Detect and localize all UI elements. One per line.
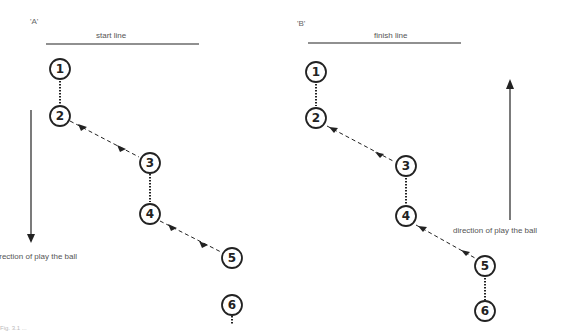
node-b-4: 4 (396, 206, 416, 226)
diagram-a (27, 44, 242, 325)
node-a-1: 1 (50, 59, 70, 79)
node-a-6: 6 (222, 295, 242, 315)
node-a-4: 4 (140, 204, 160, 224)
diagram-canvas (0, 0, 569, 335)
node-a-5: 5 (222, 248, 242, 268)
node-b-1: 1 (306, 62, 326, 82)
node-b-5: 5 (475, 256, 495, 276)
node-b-2: 2 (306, 108, 326, 128)
figure-caption: Fig. 3.1 ... (0, 325, 27, 331)
direction-label-a: direction of play the ball (0, 252, 77, 261)
panel-label-b: 'B' (297, 19, 305, 28)
start-line-label: start line (96, 31, 126, 40)
node-b-6: 6 (475, 301, 495, 321)
node-b-3: 3 (396, 156, 416, 176)
diagram-b (306, 43, 514, 321)
node-a-3: 3 (140, 153, 160, 173)
direction-label-b: direction of play the ball (453, 226, 537, 235)
finish-line-label: finish line (374, 31, 407, 40)
panel-label-a: 'A' (30, 17, 38, 26)
node-a-2: 2 (50, 106, 70, 126)
